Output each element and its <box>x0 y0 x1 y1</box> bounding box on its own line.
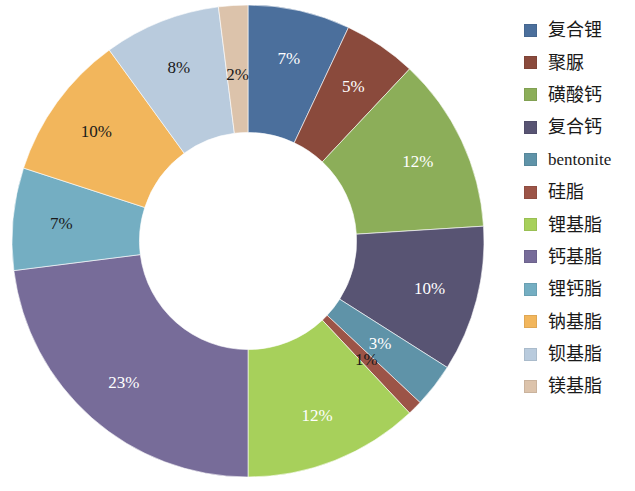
legend-item[interactable]: 锂基脂 <box>524 208 635 240</box>
legend-swatch-icon <box>524 186 537 199</box>
donut-chart-plot-area: 7%5%12%10%3%1%12%23%7%10%8%2% <box>0 0 500 491</box>
legend-item[interactable]: 镁基脂 <box>524 370 635 402</box>
legend-swatch-icon <box>524 24 537 37</box>
legend-item-label: 磺酸钙 <box>548 86 602 104</box>
donut-slices-group <box>12 5 484 477</box>
legend-item-label: 硅脂 <box>548 183 584 201</box>
legend-item-label: 复合钙 <box>548 118 602 136</box>
legend-swatch-icon <box>524 283 537 296</box>
legend-swatch-icon <box>524 315 537 328</box>
legend-item[interactable]: 磺酸钙 <box>524 79 635 111</box>
legend-item[interactable]: 硅脂 <box>524 176 635 208</box>
legend-swatch-icon <box>524 56 537 69</box>
legend-item[interactable]: 聚脲 <box>524 46 635 78</box>
legend-item[interactable]: 复合钙 <box>524 111 635 143</box>
legend-swatch-icon <box>524 250 537 263</box>
legend-swatch-icon <box>524 380 537 393</box>
legend-item[interactable]: 复合锂 <box>524 14 635 46</box>
legend-item-label: 锂基脂 <box>548 216 602 234</box>
donut-slice[interactable] <box>14 255 248 477</box>
legend-item-label: 镁基脂 <box>548 377 602 395</box>
legend-item[interactable]: 钡基脂 <box>524 338 635 370</box>
legend-item-label: 复合锂 <box>548 21 602 39</box>
legend-item-label: 锂钙脂 <box>548 280 602 298</box>
legend-item-label: 聚脲 <box>548 54 584 72</box>
legend-swatch-icon <box>524 88 537 101</box>
donut-chart-figure: 7%5%12%10%3%1%12%23%7%10%8%2% 复合锂聚脲磺酸钙复合… <box>0 0 635 491</box>
legend-swatch-icon <box>524 218 537 231</box>
legend-item[interactable]: 钙基脂 <box>524 241 635 273</box>
legend-swatch-icon <box>524 153 537 166</box>
legend-swatch-icon <box>524 121 537 134</box>
legend-item-label: 钙基脂 <box>548 248 602 266</box>
chart-legend: 复合锂聚脲磺酸钙复合钙bentonite硅脂锂基脂钙基脂锂钙脂钠基脂钡基脂镁基脂 <box>524 14 635 403</box>
legend-item-label: 钡基脂 <box>548 345 602 363</box>
legend-item[interactable]: bentonite <box>524 144 635 176</box>
legend-item[interactable]: 钠基脂 <box>524 306 635 338</box>
donut-chart-svg: 7%5%12%10%3%1%12%23%7%10%8%2% <box>0 0 500 491</box>
legend-swatch-icon <box>524 348 537 361</box>
legend-item-label: bentonite <box>548 151 611 168</box>
legend-item[interactable]: 锂钙脂 <box>524 273 635 305</box>
legend-item-label: 钠基脂 <box>548 313 602 331</box>
